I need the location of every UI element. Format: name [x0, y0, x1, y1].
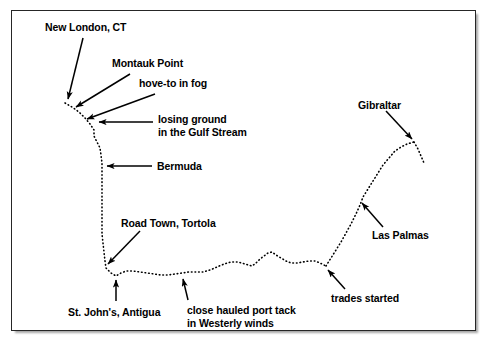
- label-gibraltar: Gibraltar: [358, 99, 401, 112]
- label-las-palmas: Las Palmas: [372, 229, 429, 242]
- arrow-close-hauled: [183, 279, 188, 300]
- label-losing-ground-line1: losing ground: [158, 113, 227, 126]
- arrow-gibraltar: [386, 111, 412, 139]
- label-losing-ground-line2: in the Gulf Stream: [158, 126, 247, 139]
- arrow-trades-started: [328, 270, 345, 289]
- arrow-hove-to-in-fog: [87, 94, 155, 119]
- label-trades-started: trades started: [331, 292, 399, 305]
- arrow-road-town: [108, 231, 140, 264]
- label-road-town: Road Town, Tortola: [121, 217, 216, 230]
- arrow-montauk-point: [76, 74, 130, 107]
- label-montauk-point: Montauk Point: [112, 57, 183, 70]
- label-new-london: New London, CT: [45, 21, 126, 34]
- label-hove-to-in-fog: hove-to in fog: [139, 77, 207, 90]
- arrow-new-london: [68, 38, 83, 99]
- label-close-hauled-line2: in Westerly winds: [187, 317, 274, 330]
- label-bermuda: Bermuda: [157, 160, 202, 173]
- route-artwork: [0, 0, 491, 349]
- label-st-johns: St. John's, Antigua: [68, 306, 160, 319]
- annotation-arrows: [68, 38, 412, 301]
- arrow-las-palmas: [362, 203, 383, 227]
- diagram-canvas: New London, CT Montauk Point hove-to in …: [0, 0, 491, 349]
- label-close-hauled-line1: close hauled port tack: [187, 304, 296, 317]
